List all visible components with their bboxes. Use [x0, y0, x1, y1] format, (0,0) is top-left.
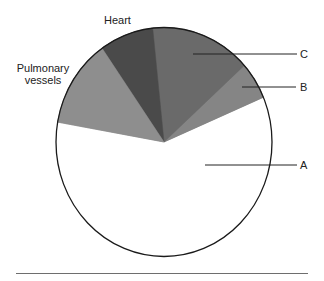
label-pulmonary-line1: Pulmonary	[12, 62, 74, 74]
label-a: A	[300, 159, 307, 171]
label-c: C	[300, 48, 308, 60]
bottom-separator-line	[16, 273, 308, 274]
pie-slices	[58, 28, 264, 142]
label-b: B	[300, 81, 307, 93]
pie-chart	[0, 0, 324, 281]
label-pulmonary-vessels: Pulmonary vessels	[12, 62, 74, 86]
label-heart: Heart	[104, 14, 131, 26]
label-pulmonary-line2: vessels	[12, 74, 74, 86]
